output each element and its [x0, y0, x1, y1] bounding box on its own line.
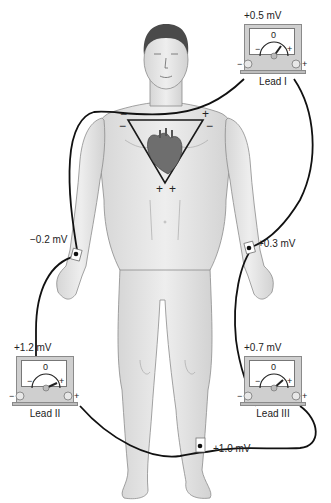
- meter-minus: −: [27, 376, 32, 386]
- meter-minus: −: [255, 376, 260, 386]
- triangle-sign-left-side: −: [119, 119, 126, 133]
- lead-i-galvanometer: 0 − + − + Lead I: [240, 24, 306, 84]
- meter-zero: 0: [271, 362, 276, 372]
- meter-zero: 0: [43, 362, 48, 372]
- left-arm-voltage-label: +0.3 mV: [258, 238, 296, 249]
- meter-plus: +: [59, 376, 64, 386]
- human-body-figure: [57, 31, 274, 499]
- left-leg-voltage-label: +1.0 mV: [213, 443, 251, 454]
- right-arm-voltage-label: −0.2 mV: [30, 234, 68, 245]
- meter-plus: +: [287, 376, 292, 386]
- meter-zero: 0: [271, 30, 276, 40]
- triangle-sign-bottom-right: +: [169, 182, 176, 196]
- terminal-minus: −: [9, 391, 14, 401]
- meter-minus: −: [255, 44, 260, 54]
- terminal-plus: +: [74, 391, 79, 401]
- terminal-minus: −: [237, 391, 242, 401]
- meter-plus: +: [287, 44, 292, 54]
- lead-ii-galvanometer: 0 − + − + Lead II: [12, 356, 78, 416]
- lead-i-reading: +0.5 mV: [244, 10, 282, 21]
- lead-ii-label: Lead II: [12, 408, 78, 419]
- meter-base: [240, 70, 306, 74]
- meter-base: [12, 402, 78, 406]
- triangle-sign-right-side: −: [206, 119, 213, 133]
- triangle-sign-bottom-left: +: [156, 182, 163, 196]
- terminal-plus: +: [302, 391, 307, 401]
- terminal-minus: −: [237, 59, 242, 69]
- lead-iii-galvanometer: 0 − + − + Lead III: [240, 356, 306, 416]
- lead-ii-reading: +1.2 mV: [14, 342, 52, 353]
- electrode-left-leg: [196, 438, 205, 452]
- einthoven-diagram: − + − − + + −0.2 mV +0.3 mV +1.0 mV +0.5…: [0, 0, 331, 503]
- lead-iii-reading: +0.7 mV: [244, 342, 282, 353]
- lead-i-label: Lead I: [240, 76, 306, 87]
- terminal-plus: +: [302, 59, 307, 69]
- lead-iii-label: Lead III: [240, 408, 306, 419]
- meter-base: [240, 402, 306, 406]
